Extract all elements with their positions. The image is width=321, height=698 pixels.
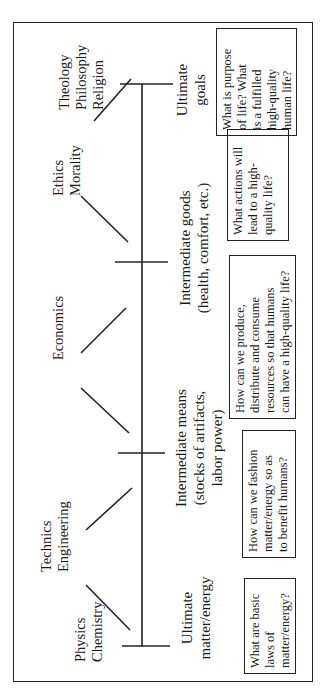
- discipline-physics: Physics Chemistry: [72, 572, 106, 662]
- discipline-technics: Technics Engineering: [38, 462, 72, 572]
- question-box-ethics: What actions will lead to a high- qualit…: [227, 129, 289, 241]
- connector-technics-a: [86, 488, 132, 530]
- discipline-economics: Economics: [50, 278, 67, 378]
- connector-technics-b: [81, 388, 129, 433]
- stage-intermediate-means: Intermediate means (stocks of artifacts,…: [172, 363, 226, 533]
- question-box-economics: How can we produce, distribute and consu…: [229, 255, 296, 419]
- question-box-theology: What is purpose of life? What is a fulfi…: [216, 28, 297, 136]
- question-box-physics: What are basic laws of matter/energy?: [244, 578, 296, 674]
- discipline-ethics: Ethics Morality: [50, 116, 84, 196]
- question-box-technics: How can we fashion matter/energy so as t…: [242, 430, 296, 558]
- stage-ultimate-goals: Ultimate goals: [173, 50, 209, 130]
- stage-ultimate-means: Ultimate matter/energy: [178, 558, 214, 678]
- discipline-theology: Theology Philosophy Religion: [56, 10, 107, 110]
- stage-intermediate-goods: Intermediate goods (health, comfort, etc…: [176, 153, 212, 343]
- connector-economics-b: [81, 196, 128, 242]
- connector-economics-a: [81, 308, 126, 353]
- ends-means-spectrum-diagram: Physics Chemistry Technics Engineering E…: [0, 0, 321, 698]
